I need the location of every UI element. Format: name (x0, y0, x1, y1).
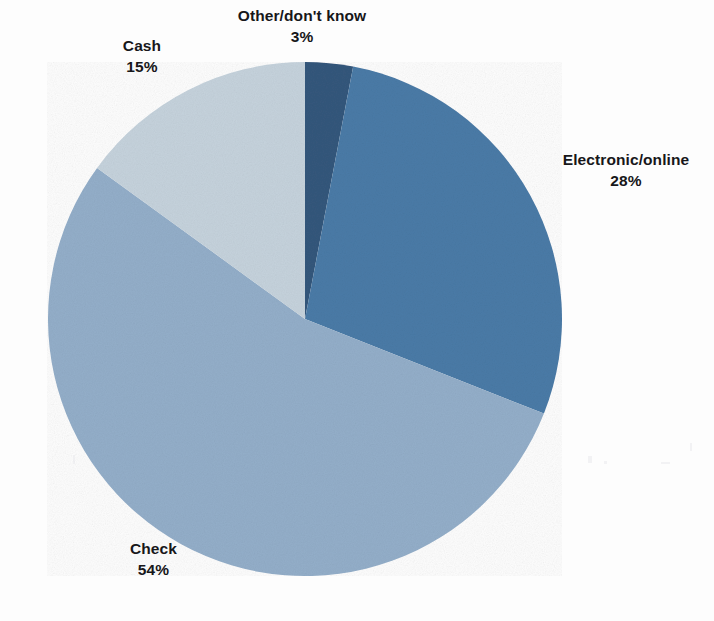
pie-label-electronic-value: 28% (536, 171, 714, 192)
pie-chart: Other/don't know 3% Electronic/online 28… (0, 0, 714, 621)
pie-label-cash: Cash 15% (83, 36, 201, 77)
pie-label-electronic: Electronic/online 28% (536, 150, 714, 191)
pie-slice-group (48, 62, 562, 576)
pie-label-cash-name: Cash (83, 36, 201, 57)
pie-label-electronic-name: Electronic/online (536, 150, 714, 171)
pie-label-cash-value: 15% (83, 57, 201, 78)
pie-chart-canvas (0, 0, 714, 621)
pie-label-check-name: Check (96, 539, 211, 560)
pie-label-other: Other/don't know 3% (187, 6, 417, 47)
pie-label-other-value: 3% (187, 27, 417, 48)
pie-label-check-value: 54% (96, 560, 211, 581)
pie-label-other-name: Other/don't know (187, 6, 417, 27)
pie-label-check: Check 54% (96, 539, 211, 580)
